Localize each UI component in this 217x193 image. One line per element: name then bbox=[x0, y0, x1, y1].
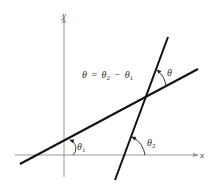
theta1-label: θ1 bbox=[77, 141, 86, 154]
equation: θ = θ2 − θ1 bbox=[82, 69, 134, 82]
theta1-arc bbox=[70, 140, 76, 155]
theta-label: θ bbox=[167, 67, 172, 78]
theta2-label: θ2 bbox=[147, 137, 156, 150]
angle-between-lines-diagram: x y θ1 θ2 θ θ = θ2 − θ1 bbox=[0, 0, 217, 193]
theta2-arc bbox=[132, 137, 145, 155]
theta-arc bbox=[157, 70, 166, 86]
x-axis-label: x bbox=[199, 150, 204, 160]
y-axis-label: y bbox=[61, 10, 66, 20]
line-1 bbox=[20, 69, 198, 164]
